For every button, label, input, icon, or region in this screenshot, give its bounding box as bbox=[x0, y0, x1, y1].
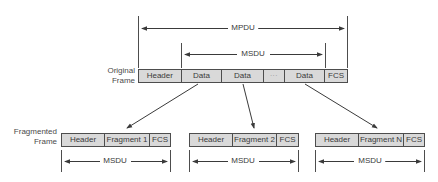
fragment-2-body-cell: Fragment 2 bbox=[233, 134, 277, 146]
fragment-1-header-cell: Header bbox=[62, 134, 105, 146]
original-data-cell-2: Data bbox=[222, 70, 264, 82]
diagram-lines bbox=[0, 0, 438, 182]
msdu-label-fragment-1: MSDU bbox=[100, 156, 130, 166]
original-frame-label-line2: Frame bbox=[92, 76, 135, 86]
original-header-cell: Header bbox=[139, 70, 182, 82]
fragmentation-diagram: MPDU MSDU MSDU MSDU MSDU Original Frame … bbox=[0, 0, 438, 182]
fragmented-frame-label: Fragmented Frame bbox=[2, 127, 57, 147]
fragment-n-body-cell: Fragment N bbox=[359, 134, 404, 146]
original-ellipsis-cell: ··· bbox=[264, 70, 285, 82]
fragment-frame-2: Header Fragment 2 FCS bbox=[189, 133, 299, 147]
fragment-frame-1: Header Fragment 1 FCS bbox=[61, 133, 171, 147]
original-fcs-cell: FCS bbox=[325, 70, 347, 82]
original-frame-label: Original Frame bbox=[92, 66, 135, 86]
msdu-label-original: MSDU bbox=[238, 49, 268, 59]
fragmented-frame-label-line1: Fragmented bbox=[2, 127, 57, 137]
fragment-arrows bbox=[127, 84, 377, 128]
original-data-cell-3: Data bbox=[285, 70, 326, 82]
original-data-cell-1: Data bbox=[182, 70, 223, 82]
original-frame-label-line1: Original bbox=[92, 66, 135, 76]
mpdu-label: MPDU bbox=[228, 23, 258, 33]
fragment-n-fcs-cell: FCS bbox=[404, 134, 424, 146]
original-frame: Header Data Data ··· Data FCS bbox=[138, 69, 348, 83]
fragment-2-header-cell: Header bbox=[190, 134, 233, 146]
msdu-label-fragment-n: MSDU bbox=[355, 156, 385, 166]
fragmented-frame-label-line2: Frame bbox=[2, 137, 57, 147]
msdu-label-fragment-2: MSDU bbox=[228, 156, 258, 166]
fragment-1-body-cell: Fragment 1 bbox=[105, 134, 150, 146]
fragment-n-header-cell: Header bbox=[316, 134, 359, 146]
fragment-frame-n: Header Fragment N FCS bbox=[315, 133, 425, 147]
fragment-2-fcs-cell: FCS bbox=[277, 134, 298, 146]
fragment-1-fcs-cell: FCS bbox=[150, 134, 170, 146]
